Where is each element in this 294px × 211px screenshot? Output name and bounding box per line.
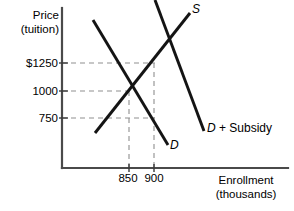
supply-demand-diagram: Price (tuition) $1250 1000 750 850 900 E… <box>0 0 294 211</box>
y-axis-title-line1: Price <box>2 8 59 22</box>
supply-curve-label: S <box>192 3 200 16</box>
x-axis-title: Enrollment (thousands) <box>200 173 292 201</box>
demand-subsidy-curve-label: D + Subsidy <box>207 122 272 135</box>
x-tick-label-900: 900 <box>134 172 174 185</box>
demand-subsidy-curve <box>155 0 204 131</box>
x-axis-title-line1: Enrollment <box>200 173 292 187</box>
y-tick-label-1250: $1250 <box>8 57 58 70</box>
demand-subsidy-label-d: D <box>207 121 216 135</box>
demand-curve-label: D <box>170 139 179 152</box>
y-tick-label-750: 750 <box>8 112 58 125</box>
curves <box>93 0 204 145</box>
demand-subsidy-label-suffix: + Subsidy <box>216 121 272 135</box>
y-tick-label-1000: 1000 <box>8 85 58 98</box>
x-axis-title-line2: (thousands) <box>200 187 292 201</box>
y-axis-title-line2: (tuition) <box>2 22 59 36</box>
demand-curve <box>93 20 168 145</box>
y-axis-title: Price (tuition) <box>2 8 59 36</box>
supply-curve <box>95 13 190 133</box>
